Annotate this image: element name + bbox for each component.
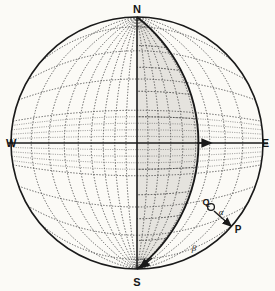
label-point-q: Q — [202, 197, 209, 207]
label-point-p: P — [235, 224, 242, 235]
label-angle-beta: β — [191, 243, 197, 253]
label-angle-alpha: α — [219, 207, 224, 217]
stereonet-canvas: N S E W Q P α β — [0, 0, 275, 291]
label-north: N — [133, 3, 141, 15]
label-east: E — [262, 137, 269, 149]
stereonet-figure: N S E W Q P α β — [0, 0, 275, 291]
label-south: S — [133, 276, 140, 288]
label-west: W — [6, 137, 17, 149]
